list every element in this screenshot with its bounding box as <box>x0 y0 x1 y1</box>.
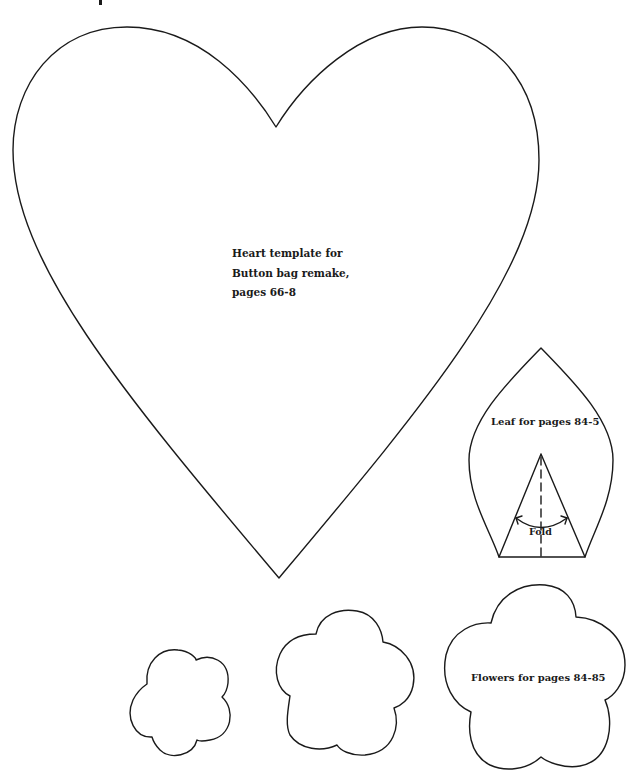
heart-label-line-2: Button bag remake, <box>232 264 349 284</box>
flower-medium-outline <box>276 610 413 755</box>
fold-label: Fold <box>529 525 552 539</box>
template-sheet: Heart template for Button bag remake, pa… <box>0 0 638 784</box>
heart-label-line-1: Heart template for <box>232 244 349 264</box>
heart-template-label: Heart template for Button bag remake, pa… <box>232 244 349 303</box>
leaf-fold-triangle <box>499 454 585 557</box>
flower-small-outline <box>130 650 230 756</box>
heart-outline <box>13 27 539 578</box>
heart-label-line-3: pages 66-8 <box>232 283 349 303</box>
template-shapes <box>0 0 638 784</box>
flower-template-label: Flowers for pages 84-85 <box>471 668 606 688</box>
leaf-template-label: Leaf for pages 84-5 <box>491 412 599 432</box>
